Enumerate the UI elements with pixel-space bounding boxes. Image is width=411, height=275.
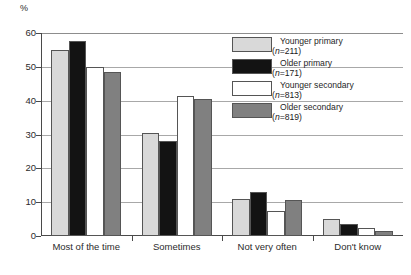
bar (86, 67, 104, 236)
bar (358, 228, 376, 236)
legend-swatch (232, 103, 272, 118)
legend-series-name: Older secondary (280, 102, 343, 112)
legend-sample-size: (n=813) (272, 90, 354, 100)
x-axis-category-label: Sometimes (153, 241, 201, 252)
bar-group (51, 33, 121, 236)
x-axis-category-label: Not very often (238, 241, 297, 252)
legend-label-block: Younger secondary(n=813) (272, 80, 354, 101)
legend-swatch (232, 59, 272, 74)
bar (194, 99, 212, 236)
legend-label-block: Older primary(n=171) (272, 58, 332, 79)
bar (142, 133, 160, 236)
legend-item: Older primary(n=171) (232, 58, 407, 79)
bar (375, 231, 393, 236)
y-axis-tick-marks (0, 33, 41, 236)
legend-item: Younger primary(n=211) (232, 36, 407, 57)
legend-label-block: Younger primary(n=211) (272, 36, 343, 57)
legend-series-name: Younger secondary (280, 80, 354, 90)
legend-sample-size: (n=171) (272, 68, 332, 78)
bar-group (142, 33, 212, 236)
bar (104, 72, 122, 236)
bar (69, 41, 87, 236)
bar-chart: % 0102030405060 Most of the timeSometime… (0, 0, 411, 275)
x-axis-category-labels: Most of the timeSometimesNot very oftenD… (41, 241, 403, 261)
bar (51, 50, 69, 236)
legend-sample-size: (n=819) (272, 112, 343, 122)
bar (267, 211, 285, 236)
y-axis-tick-mark (36, 236, 41, 237)
legend-item: Younger secondary(n=813) (232, 80, 407, 101)
x-axis-category-label: Don't know (334, 241, 381, 252)
legend: Younger primary(n=211)Older primary(n=17… (232, 36, 407, 124)
y-axis-unit-label: % (20, 3, 28, 13)
legend-sample-size: (n=211) (272, 46, 343, 56)
bar (250, 192, 268, 236)
legend-swatch (232, 81, 272, 96)
bar (232, 199, 250, 236)
x-axis-category-label: Most of the time (52, 241, 120, 252)
bar (340, 224, 358, 236)
bar (177, 96, 195, 236)
bar (159, 141, 177, 236)
legend-series-name: Younger primary (280, 36, 343, 46)
legend-swatch (232, 37, 272, 52)
bar (285, 200, 303, 236)
legend-item: Older secondary(n=819) (232, 102, 407, 123)
legend-series-name: Older primary (280, 58, 332, 68)
legend-label-block: Older secondary(n=819) (272, 102, 343, 123)
bar (323, 219, 341, 236)
